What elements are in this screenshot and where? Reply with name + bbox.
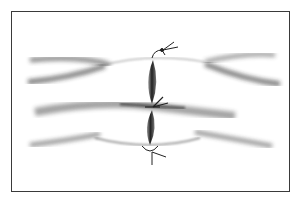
middle-strand: [35, 104, 235, 116]
top-knot-icon: [152, 42, 178, 58]
suture-illustration: [0, 0, 303, 204]
bottom-knot-icon: [142, 146, 166, 165]
